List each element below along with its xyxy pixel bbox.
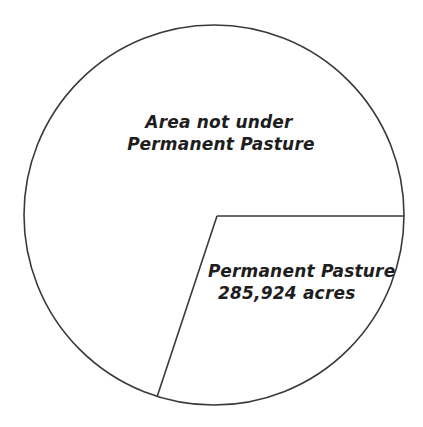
slice-label-other-line2: Permanent Pasture (127, 134, 314, 154)
pie-chart (0, 0, 423, 427)
slice-label-other-line1: Area not under (145, 112, 292, 132)
slice-label-pasture-line1: Permanent Pasture (208, 261, 395, 281)
slice-label-pasture-value: 285,924 acres (218, 283, 356, 303)
pie-outline (24, 25, 404, 405)
